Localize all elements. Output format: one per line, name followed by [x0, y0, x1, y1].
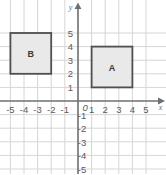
coordinate-grid-svg: B A y x 0 -5 -4 -3 -2 -1 [0, 0, 166, 174]
y-tick-labels-positive: 5 4 3 2 1 [68, 28, 73, 93]
y-tick-4: 4 [68, 41, 73, 52]
y-tick-5: 5 [68, 28, 73, 39]
x-tick-4: 4 [130, 104, 135, 115]
square-b: B [10, 33, 51, 74]
y-tick-1: 1 [68, 82, 73, 93]
coordinate-plane-figure: B A y x 0 -5 -4 -3 -2 -1 [0, 0, 166, 174]
x-tick-1: 1 [89, 104, 94, 115]
y-tick-minus5: -5 [78, 164, 86, 174]
x-tick-minus1: -1 [61, 104, 69, 115]
y-tick-minus1: -1 [78, 110, 86, 121]
square-a-label: A [109, 63, 116, 73]
y-tick-minus3: -3 [78, 137, 86, 148]
square-b-label: B [28, 49, 35, 59]
y-tick-2: 2 [68, 68, 73, 79]
x-tick-minus2: -2 [47, 104, 55, 115]
x-tick-minus4: -4 [20, 104, 28, 115]
x-tick-minus5: -5 [6, 104, 14, 115]
y-tick-minus4: -4 [78, 150, 86, 161]
y-tick-minus2: -2 [78, 123, 86, 134]
x-axis-label: x [158, 103, 163, 112]
x-tick-5: 5 [143, 104, 148, 115]
y-axis-label: y [68, 3, 73, 12]
y-tick-3: 3 [68, 55, 73, 66]
square-a: A [92, 47, 133, 88]
x-tick-2: 2 [103, 104, 108, 115]
y-tick-labels-negative: -1 -2 -3 -4 -5 [78, 110, 86, 175]
x-tick-3: 3 [116, 104, 121, 115]
x-tick-minus3: -3 [33, 104, 41, 115]
